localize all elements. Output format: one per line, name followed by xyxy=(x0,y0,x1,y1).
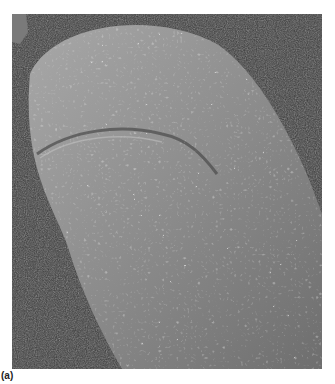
micrograph-image xyxy=(12,14,322,369)
figure-caption-label: (a) xyxy=(1,370,13,382)
micrograph-svg xyxy=(12,14,322,369)
